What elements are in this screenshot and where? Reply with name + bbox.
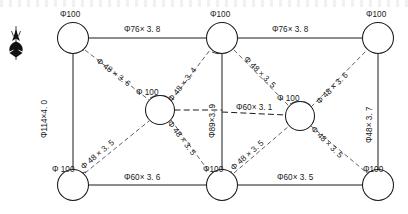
label-brace-bottomcenter-to-midright: Φ 48 × 3. 5 [229, 138, 266, 172]
label-middle-horizontal: Φ60× 3. 1 [236, 103, 273, 112]
label-brace-midleft-to-topcenter: Φ 48 × 3. 4 [166, 65, 199, 103]
label-vertical-center: Φ89×3. 9 [208, 103, 217, 138]
label-node-top-right: Φ100 [366, 10, 387, 19]
diagonal-braces-group [85, 50, 367, 173]
label-brace-topleft-to-midleft: Φ 48 × 3. 6 [94, 56, 132, 89]
label-node-bottom-right: Φ100 [363, 165, 384, 174]
node-top-right [363, 23, 394, 54]
member-lines-group [73, 38, 378, 185]
brace-bottomleft-to-midleft [85, 121, 149, 173]
label-bottom-chord-left: Φ60× 3. 6 [124, 173, 161, 182]
label-vertical-left: Φ114×4. 0 [40, 100, 49, 138]
label-vertical-right: Φ48× 3. 7 [365, 106, 374, 143]
label-brace-midright-to-bottomright: Φ 48 × 3. 5 [309, 125, 345, 161]
label-node-bottom-left: Φ 100 [52, 165, 75, 174]
label-node-top-left: Φ100 [60, 10, 81, 19]
nodes-group [58, 23, 394, 201]
label-brace-midright-to-topright: Φ 48 × 3. 6 [315, 70, 351, 106]
label-bottom-chord-right: Φ60× 3. 5 [277, 173, 314, 182]
drawing-canvas: Φ100 Φ100 Φ100 Φ 100 Φ 100 Φ 100 Φ100 Φ1… [0, 0, 408, 214]
member-middle-horizontal-right-seg [222, 112, 286, 115]
north-arrow-icon [9, 26, 22, 60]
label-top-chord-right: Φ76× 3. 8 [272, 25, 309, 34]
node-top-center [207, 23, 238, 54]
label-node-bottom-center: Φ100 [203, 165, 224, 174]
label-node-mid-left: Φ 100 [136, 88, 159, 97]
label-node-top-center: Φ100 [210, 10, 231, 19]
label-top-chord-left: Φ76× 3. 8 [124, 25, 161, 34]
label-node-mid-right: Φ 100 [277, 94, 300, 103]
label-brace-midleft-to-bottomcenter: Φ 48 × 3. 5 [166, 119, 198, 157]
label-brace-bottomleft-to-midleft: Φ 48 × 3. 5 [79, 138, 116, 171]
node-mid-right [286, 102, 315, 131]
label-brace-topcenter-to-midright: Φ 48 × 3. 5 [242, 55, 278, 91]
truss-diagram-svg: Φ100 Φ100 Φ100 Φ 100 Φ 100 Φ 100 Φ100 Φ1… [0, 0, 408, 214]
brace-bottomcenter-to-midright [234, 126, 289, 173]
node-top-left [58, 23, 89, 54]
